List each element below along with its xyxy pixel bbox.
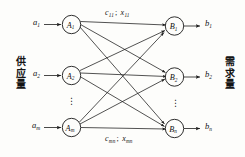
- edge-label-bottom-separator: ;: [116, 134, 120, 143]
- edge-label-top-cost-sub: 11: [109, 12, 114, 18]
- edge-label-bottom: cmn; xmn: [105, 134, 133, 143]
- demand-output-b2-sub: 2: [209, 74, 212, 80]
- demand-label-char-2: 求: [222, 68, 237, 80]
- node-label-A1-sub: 1: [72, 24, 75, 30]
- edge-Am-Bn: [81, 128, 166, 130]
- edge-A1-B2: [81, 25, 166, 73]
- supply-label-char-3: 量: [13, 79, 28, 91]
- edge-label-top-flow-sub: 11: [124, 12, 129, 18]
- edge-A2-B2: [81, 73, 167, 77]
- supply-label-char-1: 供: [13, 56, 28, 68]
- node-label-B2-sub: 2: [175, 77, 178, 83]
- node-label-A2-sub: 2: [72, 75, 75, 81]
- edge-label-top-separator: ;: [114, 8, 118, 17]
- supply-side-label: 供 应 量: [13, 56, 28, 91]
- supply-input-label-am: am: [32, 120, 40, 130]
- demand-output-label-b1: b1: [205, 18, 212, 28]
- edge-label-bottom-flow-sub: mn: [126, 138, 133, 144]
- output-arrows: [184, 26, 200, 129]
- demand-side-label: 需 求 量: [222, 56, 237, 91]
- supply-input-a1-sub: 1: [37, 22, 40, 28]
- node-label-Bn-sub: n: [174, 128, 177, 134]
- demand-output-label-bn: bn: [205, 121, 212, 131]
- source-nodes-ellipsis: ⋮: [67, 97, 75, 106]
- edge-Am-B2: [80, 79, 165, 124]
- transportation-network-diagram: A1 A2 Am B1 B2 Bn 供 应 量 需 求 量 a1 a2 am b…: [0, 0, 245, 157]
- edge-label-top: c11; x11: [105, 8, 130, 17]
- supply-input-label-a2: a2: [33, 68, 40, 78]
- demand-output-bn-sub: n: [209, 126, 212, 132]
- node-label-Am-sub: m: [71, 127, 75, 133]
- edge-label-bottom-cost-sub: mn: [109, 138, 116, 144]
- edge-A1-B1: [81, 22, 167, 26]
- supply-input-am-sub: m: [36, 125, 40, 131]
- bipartite-edges: [80, 22, 167, 130]
- supply-label-char-2: 应: [13, 68, 28, 80]
- supply-input-label-a1: a1: [33, 17, 40, 27]
- demand-label-char-3: 量: [222, 79, 237, 91]
- node-label-B1-sub: 1: [175, 26, 178, 32]
- demand-output-b1-sub: 1: [209, 23, 212, 29]
- demand-output-label-b2: b2: [205, 69, 212, 79]
- edge-A2-B1: [80, 31, 165, 71]
- input-arrows: [44, 25, 61, 128]
- demand-label-char-1: 需: [222, 56, 237, 68]
- sink-nodes-ellipsis: ⋮: [171, 99, 179, 108]
- edge-A1-Bn: [80, 27, 165, 125]
- supply-input-a2-sub: 2: [37, 73, 40, 79]
